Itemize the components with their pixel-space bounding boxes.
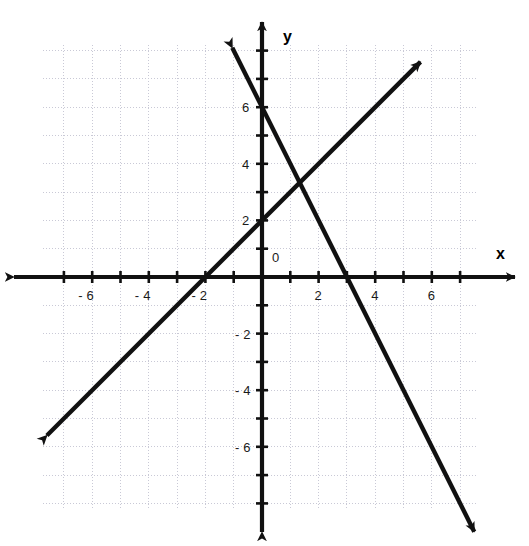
x-axis-label: x xyxy=(496,246,505,262)
x-tick-label: - 6 xyxy=(78,289,94,302)
y-tick-label: 2 xyxy=(242,214,249,227)
y-axis-label: y xyxy=(283,29,292,45)
x-tick-label: 2 xyxy=(315,289,322,302)
line-2-graph xyxy=(232,48,474,532)
x-tick-label: 6 xyxy=(428,289,435,302)
x-tick-label: - 4 xyxy=(135,289,151,302)
origin-label: 0 xyxy=(272,251,279,264)
y-tick-label: 4 xyxy=(242,158,249,171)
x-tick-label: 4 xyxy=(371,289,378,302)
y-tick-label: - 4 xyxy=(235,384,251,397)
y-tick-label: - 6 xyxy=(235,441,251,454)
coordinate-graph-figure: y x 0 - 6- 4- 2246 642- 2- 4- 6 xyxy=(0,0,529,546)
y-tick-label: 6 xyxy=(242,101,249,114)
plot-canvas xyxy=(0,0,529,546)
x-tick-label: - 2 xyxy=(191,289,207,302)
y-tick-label: - 2 xyxy=(235,328,251,341)
